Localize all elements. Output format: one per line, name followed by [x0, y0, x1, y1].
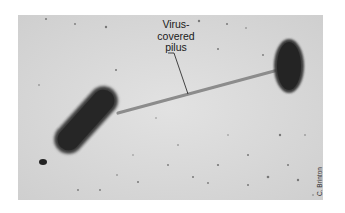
annotation-line-3: pilus	[144, 42, 208, 54]
pilus-annotation: Virus- covered pilus	[144, 19, 208, 54]
right-bacterium	[274, 39, 304, 93]
annotation-line-1: Virus-	[144, 19, 208, 31]
photo-credit: C. Brinton	[316, 167, 323, 196]
small-particle	[39, 159, 47, 165]
